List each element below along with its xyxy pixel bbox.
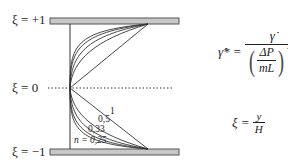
- label-xi-mid: ξ = 0: [12, 80, 38, 96]
- shear-formula-denominator: (ΔPmL)1/n: [245, 45, 288, 76]
- inner-denominator: mL: [257, 61, 276, 76]
- xi-denominator: H: [253, 123, 265, 135]
- top-plate: [50, 18, 179, 24]
- xi-numerator: y: [253, 110, 265, 123]
- label-xi-bot: ξ = −1: [12, 144, 45, 160]
- xi-formula-lhs: ξ =: [232, 115, 250, 130]
- shear-formula-lhs: γ̇* =: [218, 44, 242, 59]
- exponent: 1/n: [286, 41, 288, 51]
- curve-label-n1: 1: [110, 106, 115, 116]
- shear-formula-fraction: γ̇ (ΔPmL)1/n: [245, 28, 288, 76]
- label-xi-top: ξ = +1: [12, 12, 45, 28]
- inner-fraction: ΔPmL: [257, 45, 276, 76]
- upper-velocity-profiles: [70, 24, 148, 88]
- curve-label-n033: 0,33: [88, 124, 105, 134]
- right-paren: ): [278, 46, 284, 76]
- curve-label-n05: 0,5: [98, 114, 110, 124]
- shear-formula-numerator: γ̇: [245, 28, 288, 45]
- bottom-plate: [50, 149, 179, 155]
- left-paren: (: [249, 46, 255, 76]
- curve-label-n025: n = 0,25: [74, 135, 107, 145]
- xi-formula-fraction: y H: [253, 110, 265, 135]
- inner-numerator: ΔP: [257, 45, 276, 61]
- xi-formula: ξ = y H: [232, 110, 265, 135]
- shear-rate-formula: γ̇* = γ̇ (ΔPmL)1/n: [218, 28, 288, 76]
